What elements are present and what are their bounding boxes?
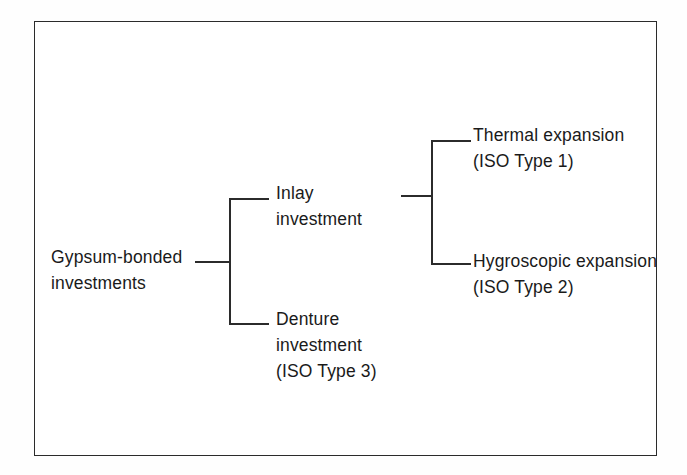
connector-bracket2-spine bbox=[431, 140, 433, 264]
connector-inlay-stem bbox=[401, 195, 432, 197]
diagram-canvas: Gypsum-bonded investments Inlay investme… bbox=[35, 22, 656, 455]
node-hygroscopic-line-1: Hygroscopic expansion bbox=[473, 248, 657, 274]
connector-root-stem bbox=[195, 261, 230, 263]
connector-bracket2-bottom-branch bbox=[431, 263, 471, 265]
node-root-line-2: investments bbox=[51, 270, 182, 296]
node-root-line-1: Gypsum-bonded bbox=[51, 244, 182, 270]
node-inlay-line-1: Inlay bbox=[276, 180, 362, 206]
node-thermal-line-1: Thermal expansion bbox=[473, 122, 624, 148]
connector-bracket1-spine bbox=[229, 198, 231, 324]
node-denture-investment: Denture investment (ISO Type 3) bbox=[276, 306, 377, 384]
node-denture-line-2: investment bbox=[276, 332, 377, 358]
node-denture-line-1: Denture bbox=[276, 306, 377, 332]
figure-frame: Gypsum-bonded investments Inlay investme… bbox=[34, 21, 657, 456]
node-inlay-investment: Inlay investment bbox=[276, 180, 362, 232]
connector-bracket1-top-branch bbox=[229, 198, 269, 200]
connector-bracket2-top-branch bbox=[431, 140, 471, 142]
node-hygroscopic-line-2: (ISO Type 2) bbox=[473, 274, 657, 300]
node-gypsum-bonded-investments: Gypsum-bonded investments bbox=[51, 244, 182, 296]
node-thermal-expansion: Thermal expansion (ISO Type 1) bbox=[473, 122, 624, 174]
node-hygroscopic-expansion: Hygroscopic expansion (ISO Type 2) bbox=[473, 248, 657, 300]
node-thermal-line-2: (ISO Type 1) bbox=[473, 148, 624, 174]
connector-bracket1-bottom-branch bbox=[229, 323, 269, 325]
node-denture-line-3: (ISO Type 3) bbox=[276, 358, 377, 384]
node-inlay-line-2: investment bbox=[276, 206, 362, 232]
